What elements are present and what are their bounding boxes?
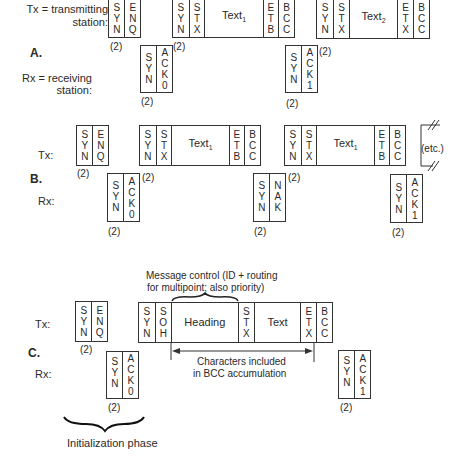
arrow-left-icon: [172, 348, 180, 354]
diagram-lines: [0, 0, 455, 469]
initialization-brace-icon: [64, 417, 144, 431]
arrow-right-icon: [305, 348, 313, 354]
etc-bracket-icon: [421, 125, 433, 166]
brace-icon: [172, 293, 238, 301]
